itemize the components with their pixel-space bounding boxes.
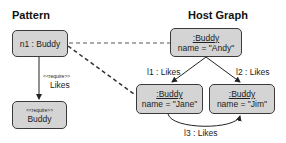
host-node-jane[interactable]: :Buddy name = "Jane" xyxy=(136,84,203,114)
host-graph-title: Host Graph xyxy=(188,9,248,21)
host-edge-l2 xyxy=(206,57,240,82)
node-attr: name = "Andy" xyxy=(178,43,234,53)
host-edge-l3 xyxy=(168,114,240,126)
host-node-andy[interactable]: :Buddy name = "Andy" xyxy=(170,28,242,57)
pattern-node-required[interactable]: <<require>> Buddy xyxy=(12,101,67,129)
node-type: :Buddy xyxy=(193,33,219,43)
node-type: :Buddy xyxy=(229,89,255,99)
host-edge-l2-label: l2 : Likes xyxy=(236,67,270,77)
host-node-jim[interactable]: :Buddy name = "Jim" xyxy=(209,84,275,114)
node-stereotype: <<require>> xyxy=(26,107,53,114)
node-type: :Buddy xyxy=(156,89,182,99)
pattern-edge-label: Likes xyxy=(50,80,70,90)
pattern-node-n1[interactable]: n1 : Buddy xyxy=(12,30,68,57)
host-edge-l3-label: l3 : Likes xyxy=(184,128,218,138)
mapping-line-n1-jane xyxy=(68,46,134,94)
pattern-title: Pattern xyxy=(12,9,50,21)
node-attr: name = "Jane" xyxy=(142,99,197,109)
node-label: n1 : Buddy xyxy=(20,39,61,49)
node-label: Buddy xyxy=(27,114,51,124)
pattern-edge-stereotype: <<require>> xyxy=(43,73,70,79)
host-edge-l1-label: l1 : Likes xyxy=(147,67,181,77)
node-attr: name = "Jim" xyxy=(217,99,267,109)
